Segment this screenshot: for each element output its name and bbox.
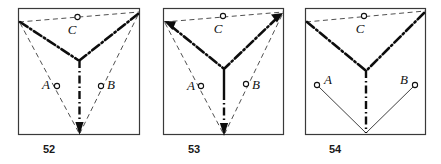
label-c: C xyxy=(68,22,77,37)
marker-a xyxy=(198,83,203,88)
label-b: B xyxy=(400,72,408,87)
marker-b xyxy=(243,81,248,86)
label-a: A xyxy=(186,78,195,93)
figure-panel-52: C A B 52 xyxy=(0,0,147,164)
label-c: C xyxy=(214,21,223,36)
marker-c xyxy=(361,13,366,18)
label-a: A xyxy=(41,77,50,92)
panel-caption: 54 xyxy=(329,143,342,155)
marker-a xyxy=(314,82,319,87)
marker-a xyxy=(54,83,59,88)
figure-plate: C A B 52 xyxy=(0,0,441,164)
panel-caption: 52 xyxy=(43,143,55,155)
label-b: B xyxy=(107,77,115,92)
panel-caption: 53 xyxy=(188,143,200,155)
label-b: B xyxy=(252,77,260,92)
figure-panel-54: C A B 54 xyxy=(294,0,441,164)
marker-c xyxy=(220,13,225,18)
label-c: C xyxy=(356,21,365,36)
marker-c xyxy=(75,14,80,19)
marker-b xyxy=(98,83,103,88)
figure-panel-53: C A B 53 xyxy=(147,0,294,164)
label-a: A xyxy=(323,72,332,87)
marker-b xyxy=(412,82,417,87)
